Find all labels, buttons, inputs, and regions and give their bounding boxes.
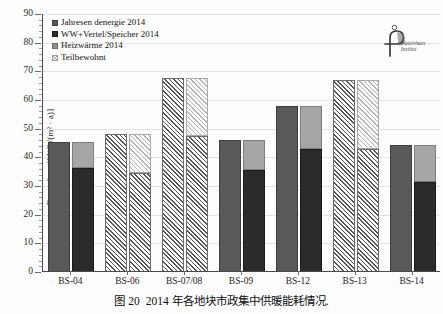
logo-line-2: Institut [401,46,425,52]
legend-item-label: Heizwärme 2014 [61,40,123,52]
x-axis-tick-label: BS-07/08 [166,276,202,286]
y-axis-minor-tick [39,146,42,147]
y-axis-minor-tick [39,232,42,233]
x-axis-tick [127,271,128,275]
bar-segment-ww-speicher [129,173,151,272]
y-axis-minor-tick [39,54,42,55]
bar-group [276,14,322,272]
x-axis-tick-label: BS-06 [115,276,139,286]
bar-segment-jahresendenergie [162,78,184,272]
y-axis-tick-label: 40 [24,153,34,163]
y-axis-tick-label: 20 [24,210,34,220]
y-axis-minor-tick [39,175,42,176]
logo-wordmark: Passivhaus Institut [401,40,425,52]
legend-item[interactable]: Jahresen denergie 2014 [52,17,159,29]
bar-segment-heizwaerme [72,142,94,168]
caption-text: 2014 年各地块市政集中供暖能耗情况. [146,295,329,307]
y-axis-tick-label: 50 [24,124,34,134]
legend-item[interactable]: Teilbewohnt [52,52,159,64]
y-axis-minor-tick [39,123,42,124]
y-axis-tick-label: 0 [28,267,33,277]
legend-swatch-icon [52,55,58,61]
bar-segment-ww-speicher [300,149,322,272]
y-axis-tick [35,186,41,187]
y-axis-minor-tick [39,134,42,135]
bar-segment-heizwaerme [129,134,151,173]
y-axis-tick-label: 60 [24,95,34,105]
y-axis-tick-label: 90 [24,9,34,19]
bar-segment-jahresendenergie [276,106,298,272]
y-axis-minor-tick [39,89,42,90]
bar-segment-heizwaerme [243,140,265,170]
legend-item[interactable]: Heizwärme 2014 [52,40,159,52]
bar-segment-jahresendenergie [390,145,412,272]
bar-segment-jahresendenergie [333,80,355,272]
bar-group [219,14,265,272]
y-axis-minor-tick [39,220,42,221]
legend-item-label: Jahresen denergie 2014 [61,17,145,29]
y-axis-minor-tick [39,180,42,181]
y-axis-minor-tick [39,77,42,78]
y-axis-minor-tick [39,255,42,256]
bar-segment-heizwaerme [414,145,436,181]
x-axis-tick [298,271,299,275]
y-axis-minor-tick [39,203,42,204]
y-axis-tick [35,100,41,101]
chart-legend: Jahresen denergie 2014WW+Vertel/Speicher… [52,17,159,63]
caption-number: 图 20 [114,295,139,307]
figure-container: Fernwärme[kWh/(m² · a)] 0102030405060708… [0,0,443,314]
y-axis-minor-tick [39,94,42,95]
y-axis-tick [35,43,41,44]
y-axis-minor-tick [39,209,42,210]
legend-item[interactable]: WW+Vertel/Speicher 2014 [52,29,159,41]
y-axis-minor-tick [39,266,42,267]
y-axis-tick [35,157,41,158]
bar-segment-jahresendenergie [48,142,70,272]
y-axis-tick [35,215,41,216]
bar-segment-heizwaerme [300,106,322,149]
y-axis-tick [35,129,41,130]
y-axis-minor-tick [39,37,42,38]
x-axis-tick-label: BS-14 [399,276,423,286]
x-axis-tick [70,271,71,275]
bar-segment-ww-speicher [357,149,379,272]
y-axis-minor-tick [39,197,42,198]
legend-item-label: Teilbewohnt [61,52,106,64]
x-axis-tick [355,271,356,275]
legend-swatch-icon [52,20,58,26]
y-axis-minor-tick [39,25,42,26]
figure-caption: 图 202014 年各地块市政集中供暖能耗情况. [0,292,443,308]
bar-segment-ww-speicher [186,136,208,272]
y-axis-minor-tick [39,238,42,239]
bar-segment-ww-speicher [414,182,436,272]
y-axis-minor-tick [39,117,42,118]
bar-group [333,14,379,272]
legend-swatch-icon [52,31,58,37]
y-axis-minor-tick [39,152,42,153]
y-axis-minor-tick [39,111,42,112]
y-axis-minor-tick [39,31,42,32]
legend-item-label: WW+Vertel/Speicher 2014 [61,29,159,41]
x-axis-tick-label: BS-04 [58,276,82,286]
y-axis-minor-tick [39,249,42,250]
bar-segment-ww-speicher [72,168,94,272]
y-axis-minor-tick [39,261,42,262]
bar-group [162,14,208,272]
y-axis-tick-label: 30 [24,181,34,191]
y-axis-minor-tick [39,60,42,61]
y-axis-minor-tick [39,192,42,193]
x-axis-tick-label: BS-13 [343,276,367,286]
bar-segment-jahresendenergie [219,140,241,272]
x-axis-tick [412,271,413,275]
y-axis-minor-tick [39,83,42,84]
y-axis-tick-label: 70 [24,67,34,77]
y-axis-minor-tick [39,106,42,107]
y-axis-tick [35,243,41,244]
y-axis-minor-tick [39,140,42,141]
passivhaus-institut-logo: Passivhaus Institut [377,22,435,62]
x-axis-tick [184,271,185,275]
y-axis-tick [35,71,41,72]
bar-segment-jahresendenergie [105,134,127,272]
y-axis-tick [35,272,41,273]
y-axis-minor-tick [39,48,42,49]
